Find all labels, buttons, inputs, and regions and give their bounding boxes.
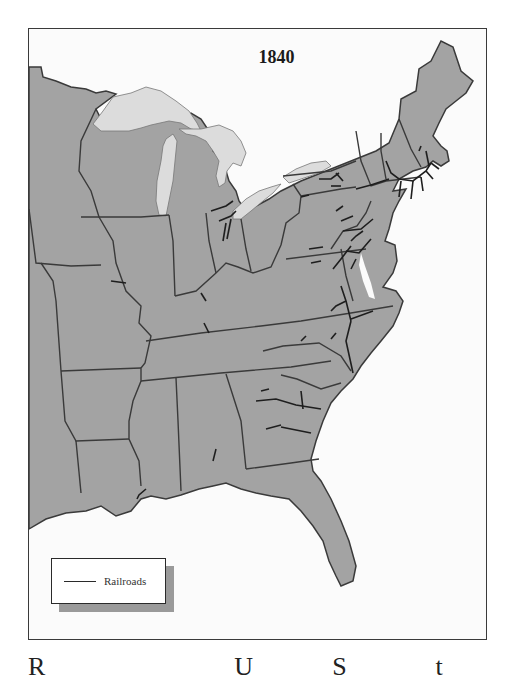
map-title: 1840 (29, 47, 486, 68)
railroad-line-icon (64, 581, 96, 582)
caption-letter: R (28, 652, 46, 679)
caption-cutoff: R U S t (28, 652, 488, 679)
map-frame: 1840 Railroads (28, 28, 487, 640)
caption-letter: U (234, 652, 254, 679)
map-canvas (29, 29, 487, 640)
legend-label-railroads: Railroads (104, 575, 146, 587)
caption-letter: S (332, 652, 347, 679)
map-legend: Railroads (51, 558, 166, 604)
caption-letter: t (436, 652, 444, 679)
